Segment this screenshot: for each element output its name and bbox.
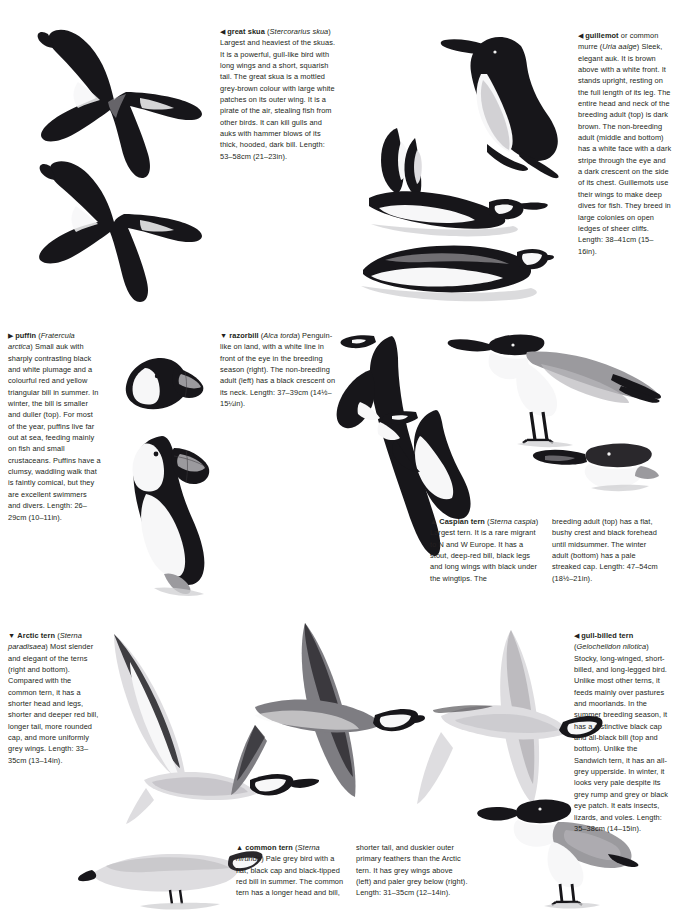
species-name: puffin	[15, 331, 36, 340]
scientific-name: Uria aalge	[602, 42, 636, 51]
species-description: Largest tern. It is a rare migrant to N …	[430, 528, 537, 582]
illustration-puffin-winter-head	[115, 352, 210, 414]
species-length: Length: 31–35cm (12–14in).	[356, 888, 450, 897]
direction-marker-icon: ◀	[220, 27, 225, 36]
species-name: common tern	[245, 843, 293, 852]
illustration-guillemot-swimming-wings	[345, 120, 550, 245]
entry-gull-billed-tern: ◀ gull-billed tern (Gelochelidon nilotic…	[574, 630, 670, 834]
species-name: guillemot	[585, 31, 619, 40]
species-description: Stocky, long-winged, short-billed, and l…	[574, 654, 668, 822]
entry-caspian-tern: ▲ Caspian tern (Sterna caspia) Largest t…	[430, 516, 540, 584]
entry-arctic-tern: ▼ Arctic tern (Sterna paradisaea) Most s…	[8, 630, 101, 766]
illustration-great-skua-flying-lower	[22, 150, 212, 310]
species-description: Sleek, elegant auk. It is brown above wi…	[578, 42, 671, 233]
entry-guillemot: ◀ guillemot or common murre (Uria aalge)…	[578, 30, 672, 257]
illustration-puffin-summer-standing	[108, 422, 233, 597]
species-description: Small auk with sharply contrasting black…	[8, 342, 101, 510]
species-name: gull-billed tern	[581, 631, 633, 640]
entry-razorbill: ▼ razorbill (Alca torda) Penguin-like on…	[220, 330, 338, 409]
species-description: Largest and heaviest of the skuas. It is…	[220, 38, 335, 149]
illustration-guillemot-swimming	[345, 230, 555, 315]
entry-caspian-tern-continued: breeding adult (top) has a flat, bushy c…	[552, 516, 664, 584]
illustration-common-tern-flying-above	[215, 615, 425, 840]
field-guide-page: ◀ great skua (Stercorarius skua) Largest…	[0, 0, 674, 916]
direction-marker-icon: ▲	[236, 843, 243, 852]
species-name: great skua	[227, 27, 265, 36]
scientific-name: Alca torda	[263, 331, 297, 340]
scientific-name: Gelochelidon nilotica	[577, 642, 647, 651]
direction-marker-icon: ▼	[8, 631, 15, 640]
species-description: Most slender and elegant of the terns (r…	[8, 642, 98, 753]
direction-marker-icon: ▶	[8, 331, 13, 340]
scientific-name: Sterna caspia	[490, 517, 536, 526]
direction-marker-icon: ▼	[220, 331, 227, 340]
illustration-caspian-tern-winter-head	[525, 438, 660, 498]
entry-great-skua: ◀ great skua (Stercorarius skua) Largest…	[220, 26, 338, 162]
scientific-name: Stercorarius skua	[270, 27, 329, 36]
illustration-caspian-tern-standing	[435, 328, 665, 448]
species-name: razorbill	[229, 331, 258, 340]
direction-marker-icon: ◀	[574, 631, 579, 640]
species-name: Caspian tern	[439, 517, 485, 526]
species-length: Length: 38–41cm (15–16in).	[578, 235, 653, 255]
entry-puffin: ▶ puffin (Fratercula arctica) Small auk …	[8, 330, 101, 523]
direction-marker-icon: ◀	[578, 31, 583, 40]
entry-common-tern: ▲ common tern (Sterna hirundo) Pale grey…	[236, 842, 346, 899]
species-name: Arctic tern	[17, 631, 55, 640]
direction-marker-icon: ▲	[430, 517, 437, 526]
